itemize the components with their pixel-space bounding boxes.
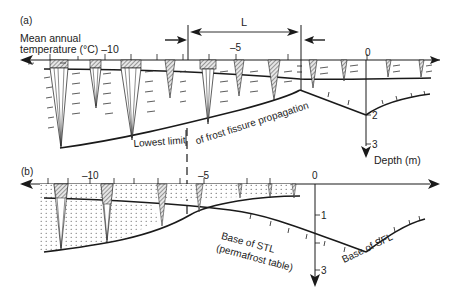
tick-label-zero-a: 0 (365, 47, 371, 58)
depth-axis-label: Depth (m) (374, 155, 421, 166)
depth-arrow-down-icon (361, 146, 371, 158)
tick-label-zero-b: 0 (312, 170, 318, 181)
depth-tick-3: 3 (372, 139, 378, 150)
tick-label-minus5-a: –5 (230, 42, 241, 53)
depth-tick-1-b: 1 (321, 210, 327, 221)
tick-label-minus5-b: –5 (198, 170, 209, 181)
panel-b-label: (b) (21, 166, 33, 177)
permafrost-table-a (300, 90, 366, 115)
depth-tick-2: 2 (372, 110, 378, 121)
dimension-label-l: L (241, 17, 247, 28)
tick-label-minus10-b: –10 (82, 170, 99, 181)
depth-tick-3-b: 3 (321, 265, 327, 276)
axis-title-line2: temperature (°C) –10 (20, 44, 119, 55)
panel-a-label: (a) (20, 15, 32, 26)
